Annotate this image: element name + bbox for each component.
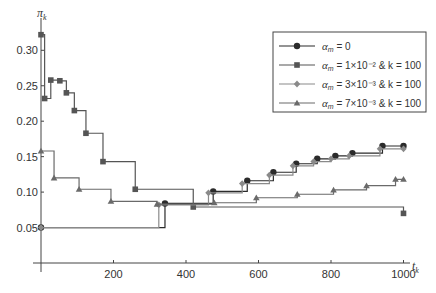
y-tick-label: 0.25 [17, 80, 38, 92]
square-marker [100, 159, 106, 165]
x-axis-title: tk [412, 259, 419, 275]
circle-marker [210, 188, 216, 194]
legend-label: αm = 3×10⁻³ & k = 100 [322, 78, 422, 91]
legend-label: αm = 7×10⁻³ & k = 100 [322, 97, 422, 110]
square-marker [42, 96, 48, 102]
x-tick-label: 200 [104, 268, 122, 280]
step-line-chart: 20040060080010000.050.100.150.200.250.30… [0, 0, 436, 293]
square-marker [48, 77, 54, 83]
x-tick-label: 800 [322, 268, 340, 280]
square-marker [72, 108, 78, 114]
series-line [41, 149, 404, 228]
x-tick-label: 400 [177, 268, 195, 280]
y-tick-label: 0.05 [17, 222, 38, 234]
circle-marker [294, 43, 300, 49]
diamond-marker [38, 224, 44, 231]
square-marker [83, 130, 89, 136]
y-tick-label: 0.30 [17, 44, 38, 56]
y-tick-label: 0.15 [17, 151, 38, 163]
legend-label: αm = 1×10⁻² & k = 100 [322, 59, 422, 72]
square-marker [294, 62, 300, 68]
square-marker [57, 78, 63, 84]
legend: αm = 0αm = 1×10⁻² & k = 100αm = 3×10⁻³ &… [273, 32, 426, 112]
series-diamond [38, 145, 407, 230]
legend-label: αm = 0 [322, 40, 351, 53]
x-tick-label: 600 [249, 268, 267, 280]
square-marker [38, 32, 44, 38]
y-axis-title: πk [37, 6, 47, 22]
square-marker [64, 90, 70, 96]
circle-marker [162, 200, 168, 206]
y-tick-label: 0.20 [17, 115, 38, 127]
square-marker [132, 186, 138, 192]
y-tick-label: 0.10 [17, 186, 38, 198]
square-marker [401, 211, 407, 217]
